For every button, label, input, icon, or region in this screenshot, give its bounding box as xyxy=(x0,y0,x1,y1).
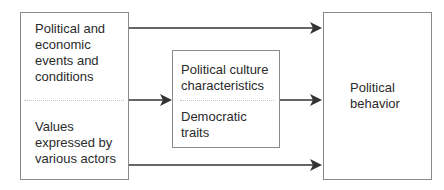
arrow-top-to-behavior xyxy=(129,22,322,34)
arrow-culture-to-behavior xyxy=(280,94,322,106)
arrow-bottom-to-behavior xyxy=(129,159,322,171)
arrow-inputs-to-culture xyxy=(129,94,172,106)
arrows-layer xyxy=(0,0,444,190)
